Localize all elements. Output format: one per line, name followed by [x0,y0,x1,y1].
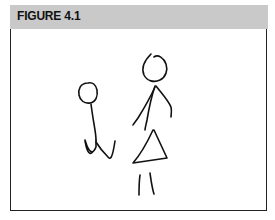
stick-figures-drawing [0,0,275,220]
small-stick-figure [79,83,115,158]
dress-stick-figure [133,54,171,195]
